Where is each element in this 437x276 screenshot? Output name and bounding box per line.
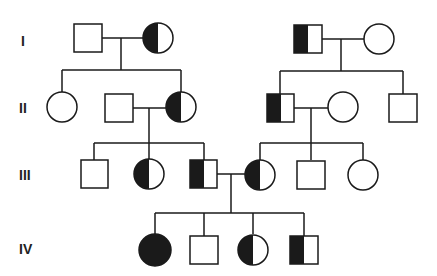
individual-III-1-male-unaffected: [81, 160, 108, 188]
individual-III-2-female-carrier: [134, 159, 164, 189]
generation-label-I: I: [21, 33, 25, 49]
individual-III-4-female-carrier: [245, 160, 275, 190]
connector-lines: [62, 38, 403, 236]
individual-IV-3-female-carrier: [238, 235, 268, 265]
generation-label-III: III: [19, 167, 31, 183]
individual-II-1-female-unaffected: [47, 92, 77, 122]
individual-II-4-male-carrier: [267, 94, 294, 122]
individual-II-2-male-unaffected: [105, 94, 133, 122]
generation-label-IV: IV: [19, 241, 32, 257]
individual-I-4-female-unaffected: [364, 24, 394, 54]
individual-II-5-female-unaffected: [328, 92, 358, 122]
individual-II-6-male-unaffected: [389, 94, 417, 122]
individual-III-6-female-unaffected: [348, 160, 378, 190]
pedigree-chart: [0, 0, 437, 276]
individual-IV-1-female-affected: [139, 234, 171, 266]
individual-I-1-male-unaffected: [74, 24, 102, 52]
individual-IV-4-male-carrier: [290, 236, 318, 264]
individual-III-3-male-carrier: [190, 160, 217, 188]
individual-IV-2-male-unaffected: [190, 236, 218, 264]
individual-I-3-male-carrier: [294, 25, 322, 53]
generation-label-II: II: [19, 100, 27, 116]
individual-II-3-female-carrier: [166, 92, 196, 122]
individual-III-5-male-unaffected: [297, 161, 325, 189]
individual-I-2-female-carrier: [143, 23, 173, 53]
